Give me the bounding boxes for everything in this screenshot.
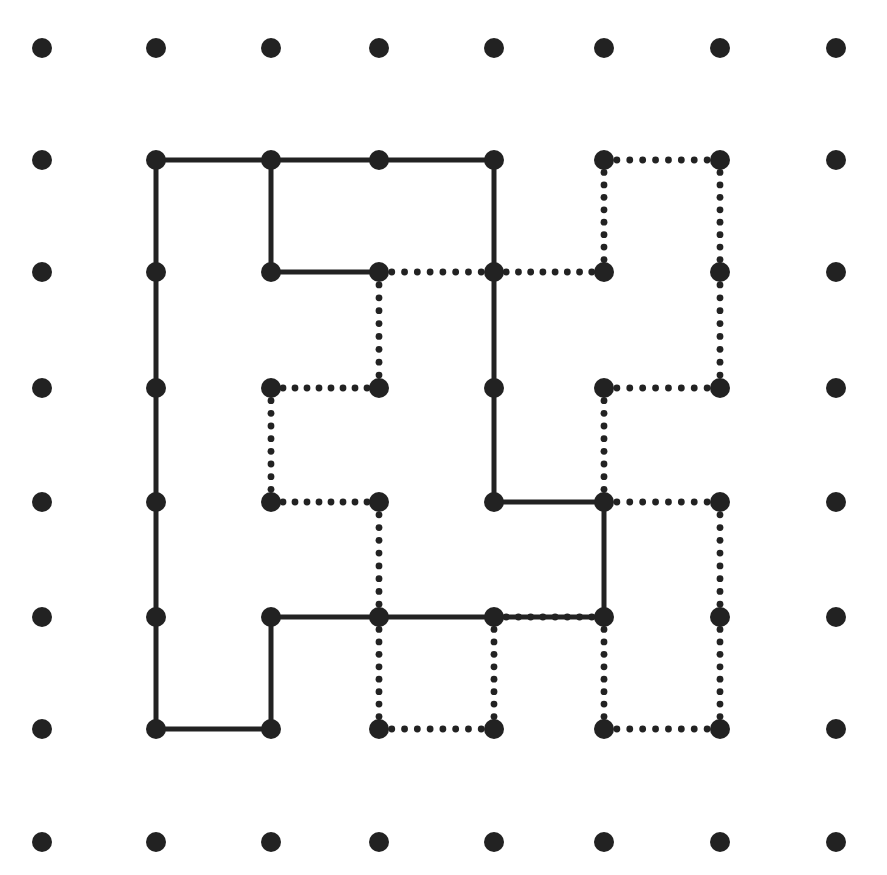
grid-dot [484, 492, 504, 512]
dotted-segment-dot [564, 269, 571, 276]
dotted-segment-dot [601, 663, 608, 670]
grid-dot [484, 719, 504, 739]
dotted-segment-dot [717, 256, 724, 263]
dotted-segment-dot [717, 307, 724, 314]
dotted-segment-dot [304, 499, 311, 506]
dotted-segment-dot [376, 333, 383, 340]
dotted-segment-dot [376, 651, 383, 658]
dotted-segment-dot [717, 562, 724, 569]
grid-dot [484, 38, 504, 58]
dotted-segment-dot [626, 726, 633, 733]
dotted-segment-dot [601, 473, 608, 480]
dotted-segment-dot [376, 562, 383, 569]
grid-dot [146, 607, 166, 627]
dotted-segment-dot [268, 397, 275, 404]
grid-dot [146, 719, 166, 739]
grid-dot [826, 378, 846, 398]
dotted-segment-dot [613, 726, 620, 733]
grid-dot [261, 832, 281, 852]
grid-dot [484, 262, 504, 282]
dotted-segment-dot [376, 601, 383, 608]
dotted-segment-dot [601, 713, 608, 720]
grid-dot [32, 38, 52, 58]
dotted-segment-dot [639, 726, 646, 733]
dotted-segment-dot [465, 726, 472, 733]
grid-dot [594, 378, 614, 398]
dotted-segment-dot [717, 688, 724, 695]
dotted-segment-dot [652, 385, 659, 392]
dotted-segment-dot [717, 550, 724, 557]
dotted-segment-dot [691, 499, 698, 506]
dotted-segment-dot [376, 307, 383, 314]
dotted-segment-dot [652, 499, 659, 506]
dot-grid-diagram [0, 0, 887, 875]
dotted-segment-dot [717, 676, 724, 683]
dotted-segment-dot [717, 244, 724, 251]
grid-dot [369, 832, 389, 852]
dotted-segment-dot [268, 486, 275, 493]
grid-dot [369, 378, 389, 398]
grid-dot [369, 719, 389, 739]
dotted-segment-dot [717, 524, 724, 531]
dotted-segment-dot [268, 423, 275, 430]
grid-dot [594, 150, 614, 170]
dotted-segment-dot [601, 181, 608, 188]
dotted-segment-dot [717, 651, 724, 658]
dotted-segment-dot [427, 269, 434, 276]
dotted-segment-dot [268, 473, 275, 480]
dotted-segment-dot [601, 169, 608, 176]
dotted-segment-dot [717, 701, 724, 708]
dotted-segment-dot [717, 320, 724, 327]
dotted-segment-dot [340, 385, 347, 392]
dotted-segment-dot [717, 169, 724, 176]
grid-dot [484, 378, 504, 398]
dotted-segment-dot [539, 614, 546, 621]
dotted-segment-dot [376, 701, 383, 708]
dotted-segment-dot [639, 157, 646, 164]
dotted-segment-dot [613, 385, 620, 392]
dotted-segment-dot [304, 385, 311, 392]
dotted-segment-dot [717, 575, 724, 582]
dotted-segment-dot [678, 385, 685, 392]
dotted-segment-dot [601, 206, 608, 213]
dotted-segment-dot [717, 281, 724, 288]
dotted-segment-dot [717, 231, 724, 238]
dotted-segment-dot [478, 269, 485, 276]
grid-dot [826, 492, 846, 512]
dotted-segment-dot [601, 626, 608, 633]
grid-dot [261, 378, 281, 398]
dotted-segment-dot [704, 499, 711, 506]
dotted-segment-dot [601, 638, 608, 645]
dotted-segment-dot [388, 269, 395, 276]
grid-dot [32, 150, 52, 170]
grid-dot [710, 150, 730, 170]
grid-dot [261, 150, 281, 170]
grid-dot [710, 262, 730, 282]
dotted-segment-dot [665, 385, 672, 392]
dotted-segment-dot [601, 423, 608, 430]
grid-dot [146, 492, 166, 512]
grid-dot [594, 38, 614, 58]
dotted-segment-dot [376, 320, 383, 327]
grid-dot [710, 719, 730, 739]
grid-dot [146, 832, 166, 852]
dotted-segment-dot [268, 410, 275, 417]
dotted-segment-dot [678, 499, 685, 506]
dotted-segment-dot [717, 588, 724, 595]
dotted-segment-dot [268, 435, 275, 442]
dotted-segment-dot [452, 726, 459, 733]
grid-dot [594, 832, 614, 852]
dotted-segment-dot [376, 688, 383, 695]
dotted-segment-dot [717, 194, 724, 201]
dotted-segment-dot [626, 157, 633, 164]
dotted-segment-dot [717, 333, 724, 340]
grid-dot [826, 719, 846, 739]
dotted-segment-dot [491, 651, 498, 658]
dotted-segment-dot [717, 359, 724, 366]
dotted-segment-dot [376, 359, 383, 366]
dotted-segment-dot [678, 726, 685, 733]
grid-dot [32, 832, 52, 852]
dotted-segment-dot [376, 294, 383, 301]
dotted-segment-dot [292, 499, 299, 506]
dotted-segment-dot [527, 614, 534, 621]
